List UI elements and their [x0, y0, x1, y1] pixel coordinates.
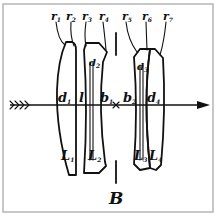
lens-diagram: r1 r2 r3 r4 r5 r6 r7 d1 d2 d3 d4 l b1 b2… [0, 0, 216, 216]
diagram-canvas: r1 r2 r3 r4 r5 r6 r7 d1 d2 d3 d4 l b1 b2… [0, 0, 216, 216]
label-stop-B: B [108, 188, 123, 208]
figure-frame [3, 4, 213, 212]
label-l: l [79, 90, 84, 105]
